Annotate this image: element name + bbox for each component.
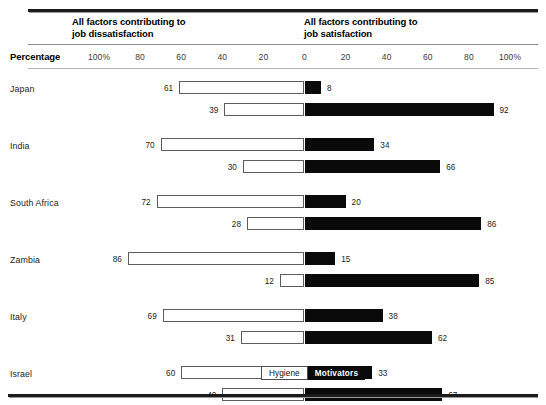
- country-label-japan: Japan: [10, 84, 34, 94]
- bar-segment-hygiene: [243, 160, 305, 173]
- bar-value-motivators: 15: [341, 255, 381, 264]
- axis-tick-8: 60: [408, 52, 448, 62]
- axis-tick-5: 0: [285, 52, 325, 62]
- top-rule-shadow: [29, 12, 538, 13]
- bar-value-hygiene: 61: [133, 84, 173, 93]
- axis-tick-1: 80: [120, 52, 160, 62]
- bar-value-hygiene: 60: [135, 369, 175, 378]
- bar-row: [0, 138, 546, 151]
- bar-value-motivators: 8: [327, 84, 367, 93]
- bar-segment-motivators: [305, 252, 336, 265]
- country-label-israel: Israel: [10, 369, 32, 379]
- column-header-dissatisfaction: All factors contributing to job dissatis…: [72, 16, 292, 39]
- axis-tick-7: 40: [367, 52, 407, 62]
- country-label-south-africa: South Africa: [10, 198, 59, 208]
- axis-tick-6: 20: [326, 52, 366, 62]
- bar-segment-motivators: [305, 103, 494, 116]
- axis-tick-4: 20: [243, 52, 283, 62]
- bar-value-motivators: 20: [352, 198, 392, 207]
- axis-baseline-rule: [28, 68, 538, 69]
- bar-segment-hygiene: [247, 217, 305, 230]
- legend-item-motivators: Motivators: [308, 366, 365, 380]
- bar-segment-hygiene: [224, 103, 304, 116]
- bar-value-hygiene: 28: [201, 220, 241, 229]
- bar-value-hygiene: 72: [111, 198, 151, 207]
- bar-value-motivators: 62: [438, 334, 478, 343]
- bar-value-motivators: 66: [446, 163, 486, 172]
- bar-segment-motivators: [305, 217, 482, 230]
- bar-value-motivators: 34: [380, 141, 420, 150]
- bar-segment-motivators: [305, 195, 346, 208]
- percentage-axis-label: Percentage: [10, 51, 60, 62]
- bar-value-hygiene: 39: [178, 106, 218, 115]
- bar-value-motivators: 86: [487, 220, 527, 229]
- bar-row: [0, 81, 546, 94]
- axis-tick-3: 40: [202, 52, 242, 62]
- axis-tick-2: 60: [161, 52, 201, 62]
- country-label-italy: Italy: [10, 312, 27, 322]
- bar-value-hygiene: 30: [197, 163, 237, 172]
- bar-value-hygiene: 69: [117, 312, 157, 321]
- bar-value-hygiene: 12: [234, 277, 274, 286]
- bar-segment-motivators: [305, 309, 383, 322]
- header-divider-rule: [28, 44, 538, 45]
- bottom-rule-shadow: [9, 397, 538, 398]
- chart-container: All factors contributing to job dissatis…: [0, 0, 546, 405]
- bar-value-motivators: 92: [500, 106, 540, 115]
- bar-segment-motivators: [305, 160, 441, 173]
- bar-segment-hygiene: [280, 274, 305, 287]
- bar-value-motivators: 38: [389, 312, 429, 321]
- axis-tick-0: 100%: [79, 52, 119, 62]
- bar-value-hygiene: 86: [82, 255, 122, 264]
- bar-row: [0, 103, 546, 116]
- chart-legend: Hygiene Motivators: [261, 366, 365, 380]
- country-label-india: India: [10, 141, 30, 151]
- bar-row: [0, 195, 546, 208]
- bar-value-hygiene: 31: [195, 334, 235, 343]
- axis-tick-10: 100%: [490, 52, 530, 62]
- bar-segment-motivators: [305, 138, 375, 151]
- bar-value-motivators: 85: [485, 277, 525, 286]
- bar-segment-hygiene: [161, 138, 305, 151]
- bar-row: [0, 217, 546, 230]
- axis-tick-9: 80: [449, 52, 489, 62]
- bar-segment-hygiene: [241, 331, 305, 344]
- bar-value-hygiene: 70: [115, 141, 155, 150]
- bar-row: [0, 309, 546, 322]
- bar-segment-motivators: [305, 81, 321, 94]
- bar-segment-hygiene: [157, 195, 305, 208]
- bar-value-motivators: 33: [378, 369, 418, 378]
- bar-segment-motivators: [305, 274, 480, 287]
- column-header-satisfaction: All factors contributing to job satisfac…: [304, 16, 524, 39]
- bar-segment-hygiene: [128, 252, 305, 265]
- legend-item-hygiene: Hygiene: [261, 366, 308, 380]
- bar-segment-motivators: [305, 331, 432, 344]
- country-label-zambia: Zambia: [10, 255, 40, 265]
- bar-segment-hygiene: [179, 81, 304, 94]
- bar-segment-hygiene: [163, 309, 305, 322]
